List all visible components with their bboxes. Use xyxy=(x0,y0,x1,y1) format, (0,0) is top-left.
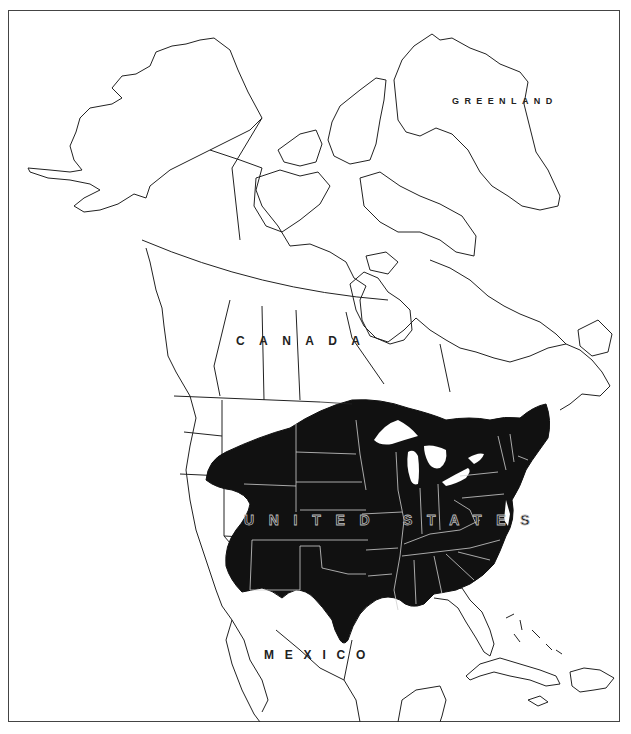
label-canada: CANADA xyxy=(236,334,374,348)
newfoundland-outline xyxy=(578,320,612,356)
quebec-labrador-outline xyxy=(430,260,566,344)
label-united-states: UNITED STATES xyxy=(244,512,544,528)
florida-outline xyxy=(430,588,494,656)
cuba-outline xyxy=(466,658,560,686)
baja-california-outline xyxy=(232,620,268,712)
sask-manitoba-boundary xyxy=(296,310,300,400)
jamaica-outline xyxy=(528,696,548,706)
southampton-island-outline xyxy=(366,252,398,274)
alberta-sask-boundary xyxy=(262,306,264,400)
washington-oregon-boundary xyxy=(184,432,222,436)
bahamas-outline xyxy=(506,614,562,654)
baffin-island-outline xyxy=(360,172,476,256)
bc-alberta-boundary xyxy=(214,300,230,396)
mexico-mainland-coast xyxy=(276,630,360,722)
yucatan-outline xyxy=(398,686,446,722)
label-mexico: MEXICO xyxy=(264,648,376,662)
arctic-island-outline xyxy=(278,130,322,166)
canada-mainland-outline xyxy=(210,150,610,410)
label-greenland: GREENLAND xyxy=(452,96,558,106)
manitoba-ontario-boundary xyxy=(346,312,384,384)
north-america-map xyxy=(0,0,631,734)
ontario-quebec-boundary xyxy=(440,344,450,392)
greenland-outline xyxy=(394,34,560,210)
alaska-outline xyxy=(28,38,262,212)
hispaniola-outline xyxy=(570,668,614,692)
ellesmere-island-outline xyxy=(328,78,386,164)
victoria-island-outline xyxy=(254,170,330,232)
arctic-boundary-arc xyxy=(142,240,388,300)
us-canada-border xyxy=(174,396,320,402)
